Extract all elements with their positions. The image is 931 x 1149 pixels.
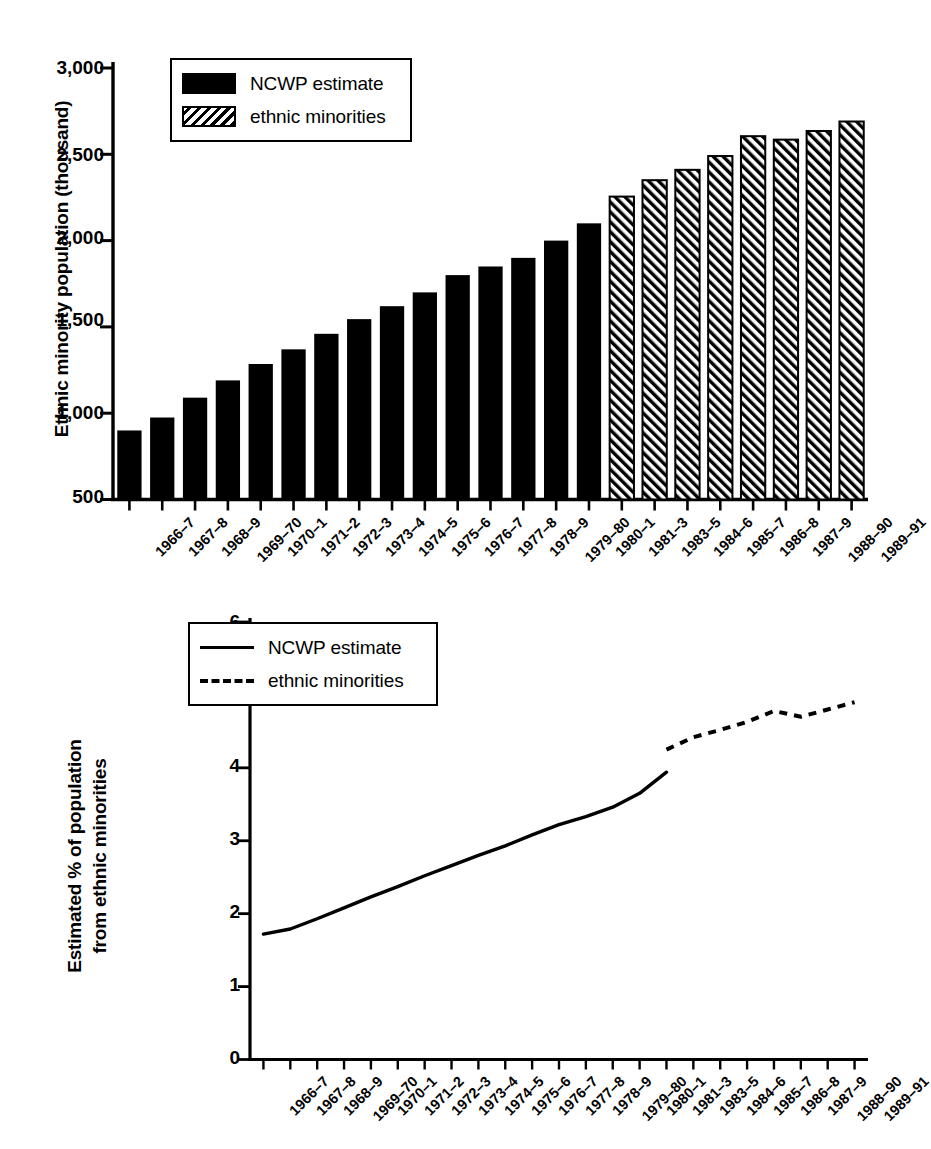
hatched-rect-icon bbox=[182, 106, 236, 127]
solid-line-icon bbox=[200, 646, 254, 649]
line-legend-label-ethnic: ethnic minorities bbox=[268, 670, 404, 692]
bar-plot-area bbox=[0, 0, 874, 600]
line-legend-item-ethnic: ethnic minorities bbox=[200, 664, 424, 697]
line-chart-panel: Estimated % of population from ethnic mi… bbox=[0, 600, 874, 1149]
bar-series-group bbox=[117, 122, 863, 500]
bar-legend-label-ethnic: ethnic minorities bbox=[250, 106, 386, 128]
bar-y-tick-marks bbox=[100, 68, 113, 500]
bar-legend-item-ncwp: NCWP estimate bbox=[182, 67, 398, 100]
line-series-group bbox=[263, 702, 854, 934]
line-legend-item-ncwp: NCWP estimate bbox=[200, 631, 424, 664]
solid-black-rect-icon bbox=[182, 73, 236, 94]
dashed-line-icon bbox=[200, 679, 254, 683]
bar-legend: NCWP estimate ethnic minorities bbox=[170, 58, 412, 142]
line-legend: NCWP estimate ethnic minorities bbox=[188, 622, 438, 706]
line-legend-label-ncwp: NCWP estimate bbox=[268, 637, 402, 659]
bar-legend-item-ethnic: ethnic minorities bbox=[182, 100, 398, 133]
bar-legend-label-ncwp: NCWP estimate bbox=[250, 73, 384, 95]
bar-chart-panel: Ethnic minority population (thousand) 3,… bbox=[0, 0, 874, 600]
